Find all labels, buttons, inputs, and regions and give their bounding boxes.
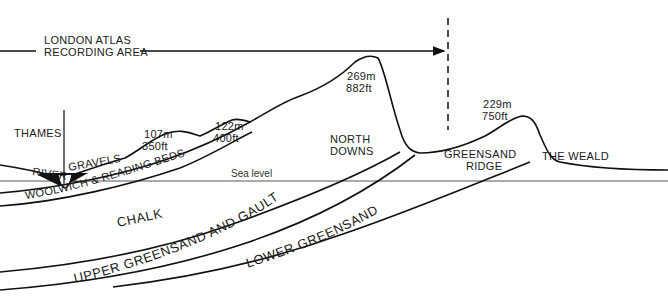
elevation-122m: 122m 400ft <box>213 120 244 144</box>
recording-area-label-1: LONDON ATLAS <box>44 34 131 46</box>
svg-text:122m: 122m <box>215 120 244 132</box>
greensand-ridge-label-1: GREENSAND <box>444 148 516 160</box>
svg-text:750ft: 750ft <box>482 110 508 122</box>
svg-text:269m: 269m <box>347 70 376 82</box>
upper-greensand-label: UPPER GREENSAND AND GAULT <box>72 189 281 286</box>
geological-cross-section: LONDON ATLAS RECORDING AREA Sea level 10… <box>0 0 668 296</box>
elevation-269m: 269m 882ft <box>346 70 376 94</box>
recording-area-indicator: LONDON ATLAS RECORDING AREA <box>0 18 448 130</box>
chalk-label: CHALK <box>116 206 164 230</box>
thames-label: THAMES <box>14 127 62 139</box>
svg-text:229m: 229m <box>483 98 512 110</box>
svg-text:350ft: 350ft <box>142 140 168 152</box>
svg-text:882ft: 882ft <box>346 82 372 94</box>
north-downs-label-2: DOWNS <box>330 145 374 157</box>
elevation-229m: 229m 750ft <box>482 98 512 122</box>
svg-text:400ft: 400ft <box>213 132 239 144</box>
river-gravels-label-1: RIVER <box>32 165 68 182</box>
elevation-107m: 107m 350ft <box>142 128 173 152</box>
sea-level-label: Sea level <box>231 168 272 179</box>
north-downs-label-1: NORTH <box>330 133 370 145</box>
the-weald-label: THE WEALD <box>542 150 609 162</box>
svg-text:107m: 107m <box>144 128 173 140</box>
recording-area-label-2: RECORDING AREA <box>44 46 148 58</box>
greensand-ridge-label-2: RIDGE <box>466 160 502 172</box>
